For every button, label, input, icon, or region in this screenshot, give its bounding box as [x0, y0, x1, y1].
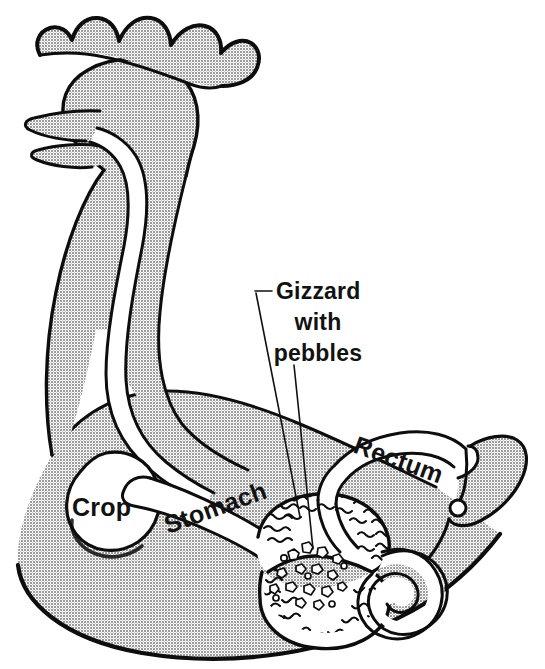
diagram-root: Gizzard with pebbles Crop Stomach Rectum [0, 0, 545, 669]
callout-gizzard-line2: with [294, 309, 342, 335]
callout-gizzard-line3: pebbles [274, 340, 362, 366]
callout-gizzard: Gizzard with pebbles [274, 278, 362, 366]
callout-gizzard-line1: Gizzard [276, 278, 360, 304]
organ-label-crop: Crop [72, 493, 131, 521]
chicken-digestive-diagram: Gizzard with pebbles Crop Stomach Rectum [0, 0, 545, 669]
